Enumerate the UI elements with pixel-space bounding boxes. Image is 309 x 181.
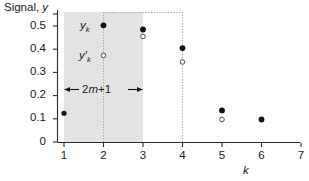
- window-size-annotation-b: +1: [98, 83, 111, 95]
- y-tick-label-0.4: 0.4: [18, 43, 46, 55]
- y-axis-title-variable: y: [42, 1, 48, 13]
- chart-figure: Signal, y 0.5 0.4 0.3 0.2 0.1 0 1 2 3 4 …: [0, 0, 309, 181]
- data-point-open-k4: [180, 60, 185, 65]
- data-point-filled-k5: [219, 108, 225, 114]
- y-tick-label-0.5: 0.5: [18, 20, 46, 32]
- y-tick-label-0.2: 0.2: [18, 89, 46, 101]
- series-label-raw: yk: [80, 20, 90, 34]
- series-label-raw-subscript: k: [86, 25, 90, 34]
- data-point-filled-k3: [140, 27, 146, 33]
- x-tick-label-3: 3: [136, 150, 150, 162]
- data-point-filled-k4: [180, 45, 186, 51]
- x-tick-label-5: 5: [215, 150, 229, 162]
- data-point-open-k3: [141, 34, 146, 39]
- y-tick-label-0: 0: [18, 136, 46, 148]
- x-tick-label-6: 6: [255, 150, 269, 162]
- x-axis-title: k: [243, 165, 249, 177]
- series-label-smooth-base: y′: [79, 49, 87, 61]
- data-point-open-k2: [101, 53, 106, 58]
- window-size-annotation: 2m+1: [82, 84, 111, 96]
- data-point-filled-k6: [259, 117, 265, 123]
- y-axis-title: Signal, y: [4, 2, 48, 14]
- series-label-smooth: y′k: [79, 50, 91, 64]
- series-label-smooth-subscript: k: [87, 55, 91, 64]
- x-tick-label-2: 2: [97, 150, 111, 162]
- y-tick-label-0.3: 0.3: [18, 66, 46, 78]
- x-tick-label-7: 7: [294, 150, 308, 162]
- data-point-open-k5: [220, 117, 225, 122]
- data-point-filled-k2: [101, 22, 107, 28]
- y-axis-title-prefix: Signal,: [4, 1, 42, 13]
- x-tick-label-4: 4: [176, 150, 190, 162]
- window-size-annotation-m: m: [88, 83, 98, 95]
- data-point-filled-k1: [61, 111, 66, 116]
- x-tick-label-1: 1: [57, 150, 71, 162]
- y-tick-label-0.1: 0.1: [18, 112, 46, 124]
